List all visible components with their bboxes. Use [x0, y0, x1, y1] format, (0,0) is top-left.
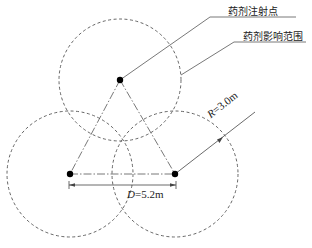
influence-range-label: 药剂影响范围: [243, 28, 303, 43]
spacing-value: =5.2m: [135, 188, 164, 200]
injection-point-top: [117, 77, 123, 83]
spacing-symbol: D: [127, 188, 135, 200]
injection-point-left: [67, 171, 73, 177]
radius-dimension: [175, 112, 255, 174]
leader-lines: [120, 17, 306, 80]
spacing-label: D=5.2m: [127, 188, 163, 200]
injection-point-label: 药剂注射点: [228, 3, 278, 18]
triangle-layout-lines: [70, 80, 175, 174]
injection-point-right: [172, 171, 178, 177]
